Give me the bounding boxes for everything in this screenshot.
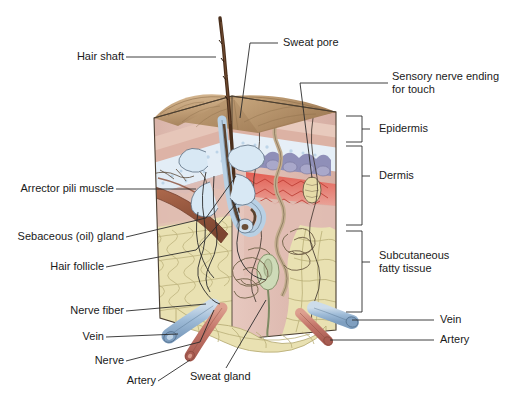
- leader-artery-left: [158, 360, 190, 381]
- skin-cross-section-figure: Hair shaft Sweat pore Sensory nerve endi…: [0, 0, 505, 395]
- label-dermis: Dermis: [379, 169, 414, 182]
- label-hair-follicle: Hair follicle: [2, 260, 104, 273]
- label-subcutaneous-line2: fatty tissue: [379, 262, 432, 275]
- label-sweat-gland: Sweat gland: [190, 370, 251, 383]
- bracket-subcutaneous: [346, 231, 362, 312]
- label-sensory-nerve-line1: Sensory nerve ending: [392, 70, 499, 83]
- label-vein-right: Vein: [440, 313, 461, 326]
- label-hair-shaft: Hair shaft: [2, 50, 124, 63]
- label-vein-left: Vein: [2, 330, 104, 343]
- sweat-gland-duct: [267, 290, 270, 346]
- bracket-dermis: [346, 146, 362, 225]
- label-nerve: Nerve: [2, 354, 124, 367]
- layer-brackets: [346, 116, 370, 312]
- dermal-papilla: [242, 224, 249, 230]
- label-sweat-pore: Sweat pore: [283, 36, 339, 49]
- label-arrector-pili: Arrector pili muscle: [2, 182, 114, 195]
- label-nerve-fiber: Nerve fiber: [2, 304, 124, 317]
- bracket-epidermis: [346, 116, 362, 142]
- label-artery-left: Artery: [2, 374, 156, 387]
- label-sebaceous-gland: Sebaceous (oil) gland: [2, 230, 124, 243]
- label-sensory-nerve-line2: for touch: [392, 83, 435, 96]
- label-subcutaneous-line1: Subcutaneous: [379, 249, 449, 262]
- label-artery-right: Artery: [440, 333, 469, 346]
- label-epidermis: Epidermis: [379, 122, 428, 135]
